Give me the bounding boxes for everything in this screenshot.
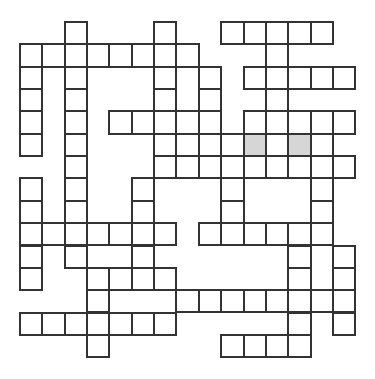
grid-cell[interactable] <box>108 110 132 134</box>
grid-cell[interactable] <box>265 155 289 179</box>
grid-cell[interactable] <box>287 155 311 179</box>
grid-cell[interactable] <box>41 312 65 336</box>
grid-cell[interactable] <box>220 222 244 246</box>
grid-cell[interactable] <box>131 222 155 246</box>
grid-cell[interactable] <box>332 110 356 134</box>
grid-cell[interactable] <box>131 110 155 134</box>
shaded-grid-cell[interactable] <box>287 133 311 157</box>
grid-cell[interactable] <box>287 222 311 246</box>
grid-cell[interactable] <box>332 312 356 336</box>
grid-cell[interactable] <box>153 43 177 67</box>
grid-cell[interactable] <box>332 66 356 90</box>
grid-cell[interactable] <box>243 66 267 90</box>
grid-cell[interactable] <box>287 66 311 90</box>
grid-cell[interactable] <box>64 222 88 246</box>
grid-cell[interactable] <box>287 312 311 336</box>
grid-cell[interactable] <box>64 110 88 134</box>
grid-cell[interactable] <box>64 66 88 90</box>
grid-cell[interactable] <box>153 88 177 112</box>
grid-cell[interactable] <box>310 21 334 45</box>
grid-cell[interactable] <box>153 312 177 336</box>
grid-cell[interactable] <box>19 177 43 201</box>
grid-cell[interactable] <box>175 43 199 67</box>
grid-cell[interactable] <box>310 222 334 246</box>
grid-cell[interactable] <box>131 43 155 67</box>
grid-cell[interactable] <box>243 222 267 246</box>
grid-cell[interactable] <box>19 267 43 291</box>
grid-cell[interactable] <box>310 66 334 90</box>
grid-cell[interactable] <box>108 43 132 67</box>
grid-cell[interactable] <box>310 289 334 313</box>
grid-cell[interactable] <box>243 110 267 134</box>
grid-cell[interactable] <box>108 222 132 246</box>
grid-cell[interactable] <box>310 133 334 157</box>
grid-cell[interactable] <box>243 334 267 358</box>
grid-cell[interactable] <box>131 177 155 201</box>
grid-cell[interactable] <box>265 334 289 358</box>
grid-cell[interactable] <box>64 200 88 224</box>
grid-cell[interactable] <box>265 289 289 313</box>
grid-cell[interactable] <box>19 312 43 336</box>
grid-cell[interactable] <box>220 200 244 224</box>
grid-cell[interactable] <box>332 245 356 269</box>
grid-cell[interactable] <box>64 245 88 269</box>
grid-cell[interactable] <box>287 267 311 291</box>
grid-cell[interactable] <box>86 222 110 246</box>
grid-cell[interactable] <box>287 21 311 45</box>
grid-cell[interactable] <box>19 110 43 134</box>
grid-cell[interactable] <box>265 66 289 90</box>
grid-cell[interactable] <box>198 110 222 134</box>
grid-cell[interactable] <box>287 334 311 358</box>
grid-cell[interactable] <box>41 43 65 67</box>
grid-cell[interactable] <box>19 200 43 224</box>
grid-cell[interactable] <box>332 289 356 313</box>
grid-cell[interactable] <box>131 267 155 291</box>
grid-cell[interactable] <box>243 21 267 45</box>
grid-cell[interactable] <box>175 110 199 134</box>
grid-cell[interactable] <box>131 200 155 224</box>
grid-cell[interactable] <box>310 110 334 134</box>
grid-cell[interactable] <box>86 43 110 67</box>
grid-cell[interactable] <box>265 110 289 134</box>
grid-cell[interactable] <box>220 21 244 45</box>
grid-cell[interactable] <box>153 155 177 179</box>
grid-cell[interactable] <box>265 21 289 45</box>
grid-cell[interactable] <box>175 155 199 179</box>
grid-cell[interactable] <box>64 177 88 201</box>
grid-cell[interactable] <box>198 222 222 246</box>
grid-cell[interactable] <box>287 289 311 313</box>
grid-cell[interactable] <box>265 43 289 67</box>
grid-cell[interactable] <box>131 312 155 336</box>
grid-cell[interactable] <box>86 289 110 313</box>
grid-cell[interactable] <box>153 21 177 45</box>
grid-cell[interactable] <box>153 66 177 90</box>
grid-cell[interactable] <box>310 155 334 179</box>
grid-cell[interactable] <box>64 88 88 112</box>
grid-cell[interactable] <box>332 267 356 291</box>
grid-cell[interactable] <box>243 289 267 313</box>
grid-cell[interactable] <box>287 110 311 134</box>
grid-cell[interactable] <box>153 133 177 157</box>
grid-cell[interactable] <box>220 133 244 157</box>
grid-cell[interactable] <box>287 245 311 269</box>
grid-cell[interactable] <box>64 312 88 336</box>
grid-cell[interactable] <box>64 43 88 67</box>
grid-cell[interactable] <box>198 88 222 112</box>
grid-cell[interactable] <box>64 155 88 179</box>
grid-cell[interactable] <box>310 177 334 201</box>
grid-cell[interactable] <box>19 222 43 246</box>
grid-cell[interactable] <box>310 200 334 224</box>
grid-cell[interactable] <box>64 21 88 45</box>
grid-cell[interactable] <box>265 88 289 112</box>
grid-cell[interactable] <box>86 334 110 358</box>
grid-cell[interactable] <box>153 222 177 246</box>
grid-cell[interactable] <box>220 155 244 179</box>
grid-cell[interactable] <box>198 289 222 313</box>
grid-cell[interactable] <box>108 267 132 291</box>
grid-cell[interactable] <box>265 222 289 246</box>
grid-cell[interactable] <box>332 155 356 179</box>
grid-cell[interactable] <box>64 133 88 157</box>
grid-cell[interactable] <box>220 334 244 358</box>
grid-cell[interactable] <box>86 267 110 291</box>
grid-cell[interactable] <box>220 289 244 313</box>
